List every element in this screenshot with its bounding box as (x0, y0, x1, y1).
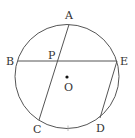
chord-AC (39, 25, 69, 121)
label-e: E (120, 55, 128, 68)
label-p: P (48, 49, 56, 62)
chord-ED (100, 61, 117, 118)
label-o: O (64, 81, 73, 94)
label-a: A (64, 9, 74, 22)
label-b: B (6, 55, 14, 68)
center-point-o (65, 75, 68, 78)
label-d: D (96, 122, 105, 135)
point-labels: ABECDP (6, 9, 128, 136)
circle-geometry-diagram: O ABECDP (0, 0, 135, 138)
label-c: C (33, 123, 41, 136)
